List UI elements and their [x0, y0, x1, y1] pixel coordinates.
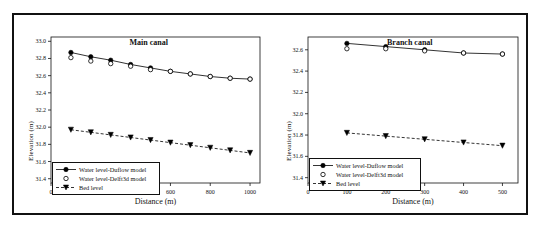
panel-title: Main canal: [130, 38, 168, 47]
legend-branch-canal: Water level-Duflow model Water level-Del…: [309, 158, 421, 191]
legend-item: Water level-Delft3d model: [312, 170, 417, 179]
legend-item: Water level-Duflow model: [55, 165, 156, 174]
legend-label: Water level-Delft3d model: [77, 174, 146, 183]
y-tick-label: 32.0: [36, 124, 47, 130]
data-point-marker: [345, 47, 349, 51]
y-axis-title: Elevation (m): [285, 121, 293, 161]
legend-label: Water level-Duflow model: [77, 165, 146, 174]
y-tick-label: 33.0: [36, 38, 47, 44]
data-point-marker: [69, 55, 73, 59]
data-point-marker: [69, 50, 73, 54]
figure-frame: Elevation (m) Main canal 31.431.631.832.…: [12, 13, 528, 215]
data-point-marker: [188, 72, 192, 76]
legend-key-filled-circle-icon: [312, 161, 334, 170]
data-point-marker: [422, 49, 426, 53]
data-point-marker: [248, 77, 252, 81]
legend-label: Water level-Duflow model: [334, 161, 403, 170]
y-tick-label: 32.2: [293, 89, 304, 95]
legend-key-open-circle-icon: [55, 174, 77, 183]
legend-key-filled-circle-icon: [55, 165, 77, 174]
data-point-marker: [384, 47, 388, 51]
y-tick-label: 31.4: [36, 176, 47, 182]
legend-item: Water level-Delft3d model: [55, 174, 156, 183]
x-axis-title: Distance (m): [51, 197, 260, 206]
y-tick-label: 31.4: [293, 175, 304, 181]
data-point-marker: [247, 150, 252, 155]
y-tick-label: 32.6: [293, 47, 304, 53]
x-tick-label: 400: [459, 189, 468, 195]
x-tick-label: 500: [498, 189, 507, 195]
data-point-marker: [109, 61, 113, 65]
panel-title: Branch canal: [387, 38, 433, 47]
y-tick-label: 31.8: [36, 141, 47, 147]
x-axis-title: Distance (m): [308, 197, 518, 206]
y-tick-label: 31.8: [293, 132, 304, 138]
legend-item: Bed level: [312, 179, 417, 188]
y-tick-label: 31.6: [293, 153, 304, 159]
series-line: [71, 130, 250, 153]
y-axis-title: Elevation (m): [27, 121, 35, 161]
data-point-marker: [500, 52, 504, 56]
data-point-marker: [168, 69, 172, 73]
chart-panel-branch-canal: Elevation (m) Branch canal 31.431.631.83…: [272, 15, 530, 213]
data-point-marker: [89, 59, 93, 63]
legend-label: Bed level: [334, 179, 360, 188]
data-point-marker: [345, 41, 349, 45]
y-tick-label: 32.4: [293, 68, 304, 74]
legend-key-triangle-dashed-icon: [312, 179, 334, 188]
y-tick-label: 32.4: [36, 90, 47, 96]
y-tick-label: 31.6: [36, 159, 47, 165]
data-point-marker: [461, 51, 465, 55]
y-tick-label: 32.6: [36, 73, 47, 79]
legend-item: Bed level: [55, 183, 156, 192]
x-tick-label: 300: [420, 189, 429, 195]
data-point-marker: [148, 67, 152, 71]
y-tick-label: 32.2: [36, 107, 47, 113]
y-tick-label: 32.0: [293, 111, 304, 117]
legend-main-canal: Water level-Duflow model Water level-Del…: [52, 162, 160, 195]
chart-panel-main-canal: Elevation (m) Main canal 31.431.631.832.…: [14, 15, 272, 213]
legend-label: Bed level: [77, 183, 103, 192]
data-point-marker: [228, 76, 232, 80]
x-tick-label: 600: [166, 189, 175, 195]
data-point-marker: [500, 143, 505, 148]
legend-key-open-circle-icon: [312, 170, 334, 179]
x-tick-label: 800: [206, 189, 215, 195]
legend-key-triangle-dashed-icon: [55, 183, 77, 192]
data-point-marker: [128, 64, 132, 68]
x-tick-label: 1000: [244, 189, 256, 195]
series-line: [71, 52, 250, 79]
y-tick-label: 32.8: [36, 55, 47, 61]
data-point-marker: [89, 55, 93, 59]
data-point-marker: [208, 74, 212, 78]
legend-label: Water level-Delft3d model: [334, 170, 403, 179]
legend-item: Water level-Duflow model: [312, 161, 417, 170]
